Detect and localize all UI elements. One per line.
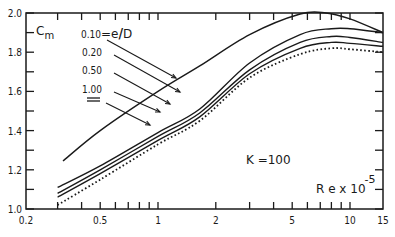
legend-arrow bbox=[114, 55, 180, 92]
x-tick-label: 0.2 bbox=[19, 215, 33, 226]
legend-arrow bbox=[107, 40, 176, 78]
legend-label-0.50: 0.50 bbox=[82, 65, 102, 76]
legend-infinity-symbol bbox=[87, 98, 100, 101]
x-tick-label: 15 bbox=[377, 215, 388, 226]
y-axis-label: Cm bbox=[36, 24, 54, 41]
x-tick-label: 10 bbox=[344, 215, 356, 226]
x-tick-label: 1 bbox=[155, 215, 161, 226]
cm-vs-re-chart: 0.20.512510151.01.21.41.61.82.0 Cm 0.10=… bbox=[0, 0, 395, 237]
x-axis-label: R e x 10-5 bbox=[316, 173, 376, 196]
y-tick-label: 1.6 bbox=[8, 86, 23, 97]
x-tick-label: 2 bbox=[213, 215, 219, 226]
legend-label-0.20: 0.20 bbox=[82, 47, 102, 58]
curve-1.00 bbox=[58, 42, 383, 197]
y-tick-label: 1.2 bbox=[8, 165, 22, 176]
legend-label-1.00: 1.00 bbox=[82, 84, 102, 95]
x-tick-label: 0.5 bbox=[93, 215, 107, 226]
k-value-label: K =100 bbox=[246, 153, 291, 167]
legend-arrows bbox=[106, 40, 180, 125]
y-tick-label: 1.8 bbox=[8, 47, 23, 58]
y-tick-label: 1.0 bbox=[8, 204, 23, 215]
y-tick-label: 1.4 bbox=[8, 126, 23, 137]
y-tick-label: 2.0 bbox=[8, 8, 23, 19]
legend-title: 0.10=e/D bbox=[81, 25, 132, 41]
x-tick-label: 5 bbox=[289, 215, 295, 226]
